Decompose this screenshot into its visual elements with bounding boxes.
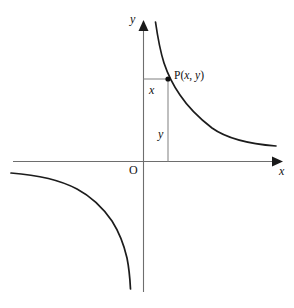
segment-y-label: y — [158, 128, 163, 140]
origin-label: O — [129, 164, 138, 176]
curve-first-quadrant — [156, 22, 277, 146]
graph-canvas — [0, 0, 294, 308]
hyperbola-figure: y x O x y P(x, y) — [0, 0, 294, 308]
point-p-prefix: P( — [174, 69, 184, 81]
y-axis-arrowhead — [139, 20, 149, 31]
y-axis-label: y — [130, 13, 135, 25]
curve-third-quadrant — [11, 173, 131, 289]
point-p-label: P(x, y) — [174, 70, 204, 82]
point-p-suffix: ) — [200, 69, 204, 81]
segment-x-label: x — [149, 84, 154, 96]
point-p-marker — [165, 76, 170, 81]
x-axis-label: x — [279, 165, 284, 177]
